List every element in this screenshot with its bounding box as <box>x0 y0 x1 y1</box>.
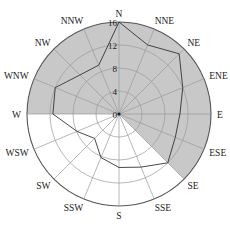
direction-label-sse: SSE <box>155 203 172 213</box>
direction-label-nw: NW <box>35 38 51 48</box>
radial-tick: 8 <box>113 64 118 74</box>
direction-label-ssw: SSW <box>64 203 84 213</box>
direction-label-nne: NNE <box>155 16 175 26</box>
spoke <box>54 114 119 179</box>
radial-tick: 4 <box>113 87 118 97</box>
direction-label-nnw: NNW <box>61 16 84 26</box>
direction-label-s: S <box>116 211 121 221</box>
wind-rose-chart: 0481216 NNNENEENEEESESESSESSSWSWWSWWWNWN… <box>0 0 230 228</box>
direction-label-wnw: WNW <box>4 71 29 81</box>
radial-tick: 12 <box>108 41 117 51</box>
direction-label-sw: SW <box>36 181 50 191</box>
direction-label-n: N <box>116 9 123 19</box>
direction-label-se: SE <box>187 181 198 191</box>
radial-tick: 16 <box>108 18 118 28</box>
center-dot <box>117 112 120 115</box>
direction-label-e: E <box>217 110 223 120</box>
direction-label-ese: ESE <box>209 148 226 158</box>
radial-tick: 0 <box>113 110 118 120</box>
direction-label-w: W <box>12 110 21 120</box>
direction-label-wsw: WSW <box>5 148 28 158</box>
direction-label-ne: NE <box>187 38 200 48</box>
direction-label-ene: ENE <box>209 71 228 81</box>
